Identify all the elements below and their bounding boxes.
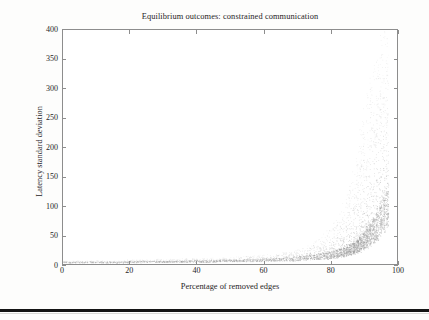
y-axis-title: Latency standard deviation	[35, 72, 44, 232]
y-tick-mark-right	[394, 206, 398, 207]
x-tick-label: 0	[45, 266, 79, 276]
x-tick-mark	[264, 261, 265, 265]
y-tick-mark-right	[394, 147, 398, 148]
y-tick-mark-right	[394, 59, 398, 60]
figure: Equilibrium outcomes: constrained commun…	[0, 0, 429, 300]
x-tick-label: 60	[247, 266, 281, 276]
x-tick-mark-top	[129, 30, 130, 34]
x-tick-label: 40	[179, 266, 213, 276]
y-axis-title-wrapper: Latency standard deviation	[14, 12, 28, 272]
x-axis-title: Percentage of removed edges	[62, 282, 398, 291]
y-tick-mark	[62, 118, 66, 119]
x-tick-mark	[129, 261, 130, 265]
scatter-plot-canvas	[63, 30, 397, 264]
y-tick-mark	[62, 147, 66, 148]
y-tick-mark	[62, 59, 66, 60]
x-tick-mark	[331, 261, 332, 265]
page-separator-hairline	[0, 313, 429, 314]
y-tick-mark-right	[394, 236, 398, 237]
x-tick-mark-top	[62, 30, 63, 34]
x-tick-mark-top	[264, 30, 265, 34]
y-tick-mark	[62, 206, 66, 207]
x-tick-label: 20	[112, 266, 146, 276]
x-tick-mark	[62, 261, 63, 265]
x-tick-mark-top	[398, 30, 399, 34]
y-tick-mark	[62, 177, 66, 178]
y-tick-mark-right	[394, 118, 398, 119]
x-tick-mark	[398, 261, 399, 265]
x-tick-mark	[196, 261, 197, 265]
page-canvas: Equilibrium outcomes: constrained commun…	[0, 0, 429, 320]
y-tick-mark-right	[394, 177, 398, 178]
x-tick-label: 80	[314, 266, 348, 276]
x-tick-label: 100	[381, 266, 415, 276]
y-tick-mark-right	[394, 88, 398, 89]
y-tick-mark	[62, 88, 66, 89]
plot-area	[62, 29, 398, 265]
y-tick-mark	[62, 236, 66, 237]
x-tick-mark-top	[331, 30, 332, 34]
chart-title: Equilibrium outcomes: constrained commun…	[62, 11, 398, 22]
page-separator-rule	[0, 309, 429, 312]
x-tick-mark-top	[196, 30, 197, 34]
scatter-point-group	[63, 31, 389, 263]
